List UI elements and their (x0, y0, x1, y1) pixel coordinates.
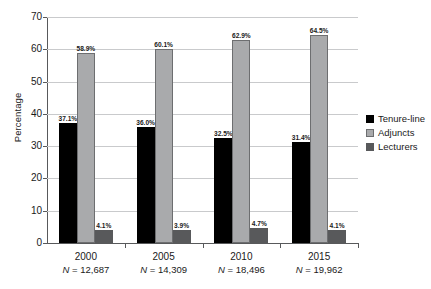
bar-lecturers-2005 (173, 230, 191, 243)
legend-item-lecturers[interactable]: Lecturers (366, 140, 431, 153)
x-axis-tick-mark (125, 244, 126, 248)
bar-value-label: 4.1% (322, 222, 352, 229)
bar-group: 31.4%64.5%4.1% (292, 17, 346, 243)
y-axis-tick-mark (43, 211, 47, 212)
x-axis-year-label: 2010 (203, 250, 281, 263)
bar-value-label: 60.1% (149, 41, 179, 48)
y-axis-tick-label: 10 (16, 206, 42, 216)
bar-value-label: 3.9% (167, 222, 197, 229)
chart-legend: Tenure-lineAdjunctsLecturers (366, 112, 431, 154)
y-axis-tick-mark (43, 82, 47, 83)
bar-chart-figure: Percentage 010203040506070 37.1%58.9%4.1… (0, 0, 431, 289)
legend-item-tenure-line[interactable]: Tenure-line (366, 112, 431, 125)
legend-item-adjuncts[interactable]: Adjuncts (366, 126, 431, 139)
x-axis-sample-size-label: N = 19,962 (280, 263, 358, 276)
y-axis-tick-label: 70 (16, 12, 42, 22)
bar-value-label: 62.9% (226, 32, 256, 39)
bar-value-label: 58.9% (71, 45, 101, 52)
bar-value-label: 64.5% (304, 27, 334, 34)
y-axis-tick-mark (43, 243, 47, 244)
y-axis-tick-labels: 010203040506070 (12, 0, 42, 289)
y-axis-tick-label: 60 (16, 44, 42, 54)
legend-swatch-icon (366, 129, 374, 137)
y-axis-tick-label: 30 (16, 141, 42, 151)
x-axis-tick-mark (280, 244, 281, 248)
legend-swatch-icon (366, 143, 374, 151)
x-axis-category-label: 2010N = 18,496 (203, 250, 281, 276)
bar-tenure-line-2000 (59, 123, 77, 243)
bar-adjuncts-2000 (77, 53, 95, 243)
bar-lecturers-2000 (95, 230, 113, 243)
bar-adjuncts-2015 (310, 35, 328, 243)
bar-group: 37.1%58.9%4.1% (59, 17, 113, 243)
legend-item-label: Lecturers (378, 142, 418, 152)
legend-item-label: Tenure-line (378, 114, 425, 124)
plot-area: 37.1%58.9%4.1%36.0%60.1%3.9%32.5%62.9%4.… (47, 17, 358, 243)
y-axis-tick-label: 50 (16, 77, 42, 87)
bar-tenure-line-2015 (292, 142, 310, 243)
bar-value-label: 4.7% (244, 220, 274, 227)
bar-lecturers-2010 (250, 228, 268, 243)
x-axis-tick-mark (203, 244, 204, 248)
bar-group: 36.0%60.1%3.9% (137, 17, 191, 243)
y-axis-tick-mark (43, 114, 47, 115)
x-axis-sample-size-label: N = 18,496 (203, 263, 281, 276)
x-axis-category-label: 2005N = 14,309 (125, 250, 203, 276)
bar-group: 32.5%62.9%4.7% (214, 17, 268, 243)
bar-value-label: 4.1% (89, 222, 119, 229)
y-axis-tick-mark (43, 17, 47, 18)
legend-swatch-icon (366, 115, 374, 123)
x-axis-category-label: 2015N = 19,962 (280, 250, 358, 276)
bar-tenure-line-2005 (137, 127, 155, 243)
y-axis-tick-label: 40 (16, 109, 42, 119)
x-axis-sample-size-label: N = 12,687 (47, 263, 125, 276)
y-axis-tick-mark (43, 49, 47, 50)
bar-adjuncts-2005 (155, 49, 173, 243)
x-axis-year-label: 2000 (47, 250, 125, 263)
bar-tenure-line-2010 (214, 138, 232, 243)
y-axis-tick-mark (43, 178, 47, 179)
bar-lecturers-2015 (328, 230, 346, 243)
y-axis-tick-label: 0 (16, 238, 42, 248)
x-axis-sample-size-label: N = 14,309 (125, 263, 203, 276)
x-axis-year-label: 2005 (125, 250, 203, 263)
bar-adjuncts-2010 (232, 40, 250, 243)
x-axis-category-label: 2000N = 12,687 (47, 250, 125, 276)
y-axis-tick-mark (43, 146, 47, 147)
y-axis-tick-label: 20 (16, 173, 42, 183)
x-axis-tick-mark (358, 244, 359, 248)
x-axis-year-label: 2015 (280, 250, 358, 263)
legend-item-label: Adjuncts (378, 128, 414, 138)
